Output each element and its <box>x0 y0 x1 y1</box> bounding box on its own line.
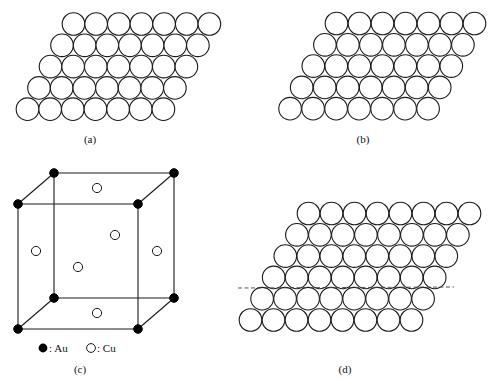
caption-c: (c) <box>74 363 87 376</box>
atom-circle <box>175 13 198 36</box>
atom-circle <box>16 98 39 121</box>
atom-layer-b <box>279 12 486 120</box>
atom-circle <box>394 55 417 78</box>
atom-circle <box>251 287 274 310</box>
atom-circle <box>153 13 176 36</box>
atom-circle <box>382 76 405 99</box>
atom-circle <box>84 98 107 121</box>
atom-circle <box>377 309 400 332</box>
atom-circle <box>308 309 331 332</box>
atom-circle <box>320 245 343 268</box>
atom-circle <box>389 287 412 310</box>
atom-circle <box>366 245 389 268</box>
atom-layer-d <box>239 202 481 331</box>
atom-circle <box>107 98 130 121</box>
atom-circle <box>141 77 164 100</box>
atom-circle <box>440 55 463 78</box>
au-atom-icon <box>50 169 59 178</box>
atom-circle <box>389 202 412 225</box>
legend-au-label: : Au <box>49 342 68 354</box>
atom-layer-a <box>16 13 221 121</box>
atom-circle <box>164 34 187 57</box>
atom-circle <box>371 55 394 78</box>
legend: : Au : Cu <box>39 342 117 354</box>
atom-circle <box>130 55 153 78</box>
atom-circle <box>354 266 377 289</box>
atom-circle <box>458 202 481 225</box>
caption-b: (b) <box>357 133 370 146</box>
atom-circle <box>325 55 348 78</box>
cu-atom-icon <box>92 183 101 192</box>
atom-circle <box>51 34 74 57</box>
atom-circle <box>62 13 85 36</box>
atom-circle <box>152 55 175 78</box>
legend-au-symbol-icon <box>39 344 48 353</box>
atom-circle <box>39 98 62 121</box>
au-atom-icon <box>14 200 23 209</box>
atom-circle <box>428 76 451 99</box>
atom-circle <box>164 77 187 100</box>
legend-cu-symbol-icon <box>87 344 96 353</box>
atom-circle <box>332 224 355 247</box>
legend-cu-label: : Cu <box>97 342 116 354</box>
au-atom-icon <box>134 325 143 334</box>
atom-circle <box>389 245 412 268</box>
atom-circle <box>405 76 428 99</box>
atom-circle <box>28 77 51 100</box>
atom-circle <box>412 202 435 225</box>
atom-circle <box>297 287 320 310</box>
atom-circle <box>297 245 320 268</box>
atom-circle <box>400 309 423 332</box>
cube-edge <box>18 298 54 329</box>
atom-circle <box>383 34 406 57</box>
atom-circle <box>394 12 417 35</box>
atom-circle <box>286 224 309 247</box>
atom-circle <box>320 287 343 310</box>
caption-d: (d) <box>339 363 352 376</box>
atom-circle <box>424 224 447 247</box>
atom-circle <box>152 98 175 121</box>
atom-circle <box>274 245 297 268</box>
atom-circle <box>371 12 394 35</box>
atom-circle <box>401 224 424 247</box>
atom-circle <box>371 97 394 120</box>
atom-circle <box>336 76 359 99</box>
panel-c-unit-cell: : Au : Cu (c) <box>14 169 179 376</box>
atom-circle <box>130 13 153 36</box>
atom-circle <box>320 202 343 225</box>
atom-circle <box>96 34 119 57</box>
atom-circle <box>348 12 371 35</box>
atom-circle <box>440 12 463 35</box>
atom-circle <box>285 266 308 289</box>
atom-circle <box>297 202 320 225</box>
atom-circle <box>429 34 452 57</box>
atom-circle <box>423 266 446 289</box>
atom-circle <box>343 202 366 225</box>
caption-a: (a) <box>84 133 97 146</box>
atom-circle <box>412 287 435 310</box>
atom-circle <box>314 34 337 57</box>
cube-edge <box>138 173 174 204</box>
atom-circle <box>262 309 285 332</box>
atom-circle <box>187 34 210 57</box>
atom-circle <box>198 13 221 36</box>
atom-circle <box>175 55 198 78</box>
atom-circle <box>62 98 85 121</box>
atom-circle <box>417 97 440 120</box>
cu-atom-icon <box>31 246 40 255</box>
atom-circle <box>325 12 348 35</box>
atom-circle <box>239 309 262 332</box>
au-atom-icon <box>50 294 59 303</box>
au-atom-icon <box>14 325 23 334</box>
atom-circle <box>107 55 130 78</box>
atom-circle <box>394 97 417 120</box>
atom-circle <box>463 12 486 35</box>
atom-circle <box>262 266 285 289</box>
atom-circle <box>447 224 470 247</box>
atom-circle <box>348 55 371 78</box>
atom-circle <box>412 245 435 268</box>
atom-circle <box>309 224 332 247</box>
atom-circle <box>108 13 131 36</box>
atom-circle <box>377 266 400 289</box>
atom-circle <box>348 97 371 120</box>
